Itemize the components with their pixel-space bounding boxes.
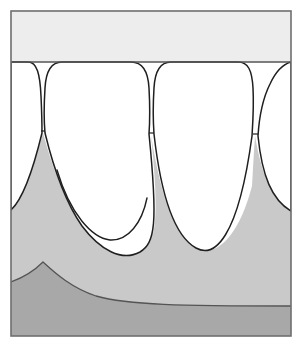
diagram-canvas [0,0,302,351]
region-upper-band [11,11,291,62]
dental-cross-section-figure [0,0,302,351]
